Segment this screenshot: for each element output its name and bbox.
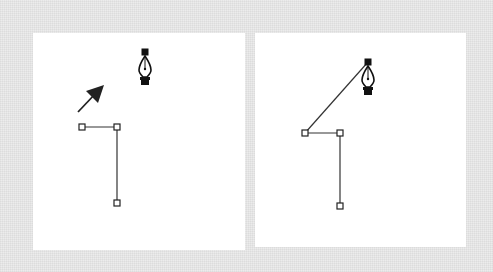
- anchor-point[interactable]: [337, 203, 343, 209]
- anchor-point[interactable]: [79, 124, 85, 130]
- rubber-band-line: [305, 62, 368, 133]
- left-path: [82, 127, 117, 203]
- anchor-point[interactable]: [114, 124, 120, 130]
- diagram-canvas: [0, 0, 493, 272]
- pen-tool-cursor-icon: [139, 49, 151, 86]
- direction-arrow-icon: [78, 85, 104, 112]
- anchor-point[interactable]: [337, 130, 343, 136]
- anchor-point[interactable]: [114, 200, 120, 206]
- anchor-point[interactable]: [302, 130, 308, 136]
- pen-tool-cursor-icon: [362, 59, 374, 96]
